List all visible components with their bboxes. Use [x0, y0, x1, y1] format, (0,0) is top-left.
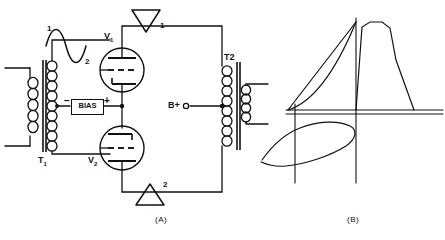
t1-primary-winding: [28, 77, 38, 132]
output-bottom-waveform-label: 2: [163, 180, 167, 189]
output-top-waveform-label: 1: [160, 21, 164, 30]
bplus-label: B+: [168, 100, 180, 110]
t1-core: [43, 60, 46, 152]
output-waveform-bottom-upright-triangle: [136, 184, 164, 205]
panel-b-caption: (B): [347, 215, 359, 224]
tube-v2-label: V2: [88, 155, 97, 167]
t2-center-tap-dot: [220, 104, 224, 108]
v2-plate-to-t2-bottom: [122, 146, 222, 192]
tube-v2: [100, 126, 144, 170]
panel-a-schematic: [0, 0, 280, 240]
v1-plate-to-t2-top: [122, 26, 222, 66]
bplus-terminal[interactable]: [183, 103, 188, 108]
plate-current-pulse: [356, 22, 414, 110]
transformer-t2-label: T2: [224, 52, 235, 62]
bias-label: BIAS: [79, 101, 97, 110]
panel-a-caption: (A): [155, 215, 167, 224]
grid-signal-sine: [261, 122, 355, 166]
tube-v1-label: V1: [104, 31, 113, 43]
t2-secondary-winding: [241, 85, 250, 122]
output-waveform-top-inverted-triangle: [132, 10, 160, 32]
load-line: [288, 22, 356, 110]
figure-canvas: BIAS – + T1 T2 V1 V2 B+ 1 2 1 2 (A) (: [0, 0, 445, 240]
bias-plus-sign: +: [104, 95, 110, 106]
panel-b-waveform-plot: [260, 0, 445, 240]
input-waveform-trough-label: 2: [85, 57, 89, 66]
transformer-t1-label: T1: [38, 155, 47, 167]
bias-minus-sign: –: [64, 95, 70, 106]
input-waveform-peak-label: 1: [47, 24, 51, 33]
t2-core: [237, 62, 240, 150]
bias-source-box[interactable]: BIAS: [71, 99, 104, 115]
cathode-bus-junction-dot: [120, 104, 124, 108]
t1-center-tap-dot: [55, 104, 59, 108]
